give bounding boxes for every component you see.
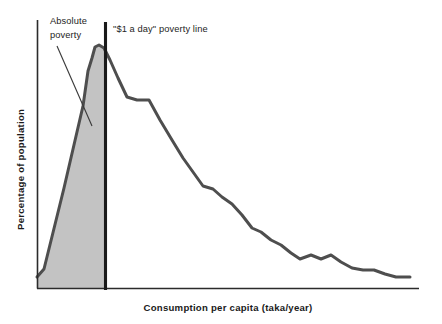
- absolute-poverty-label-line2: poverty: [50, 30, 81, 40]
- chart-figure: Absolute poverty "$1 a day" poverty line…: [0, 0, 442, 324]
- distribution-chart: Absolute poverty "$1 a day" poverty line…: [0, 0, 442, 324]
- y-axis-title: Percentage of population: [15, 109, 26, 230]
- dollar-a-day-poverty-line-label: "$1 a day" poverty line: [113, 24, 208, 34]
- absolute-poverty-label-line1: Absolute: [50, 16, 87, 26]
- x-axis-title: Consumption per capita (taka/year): [144, 302, 313, 313]
